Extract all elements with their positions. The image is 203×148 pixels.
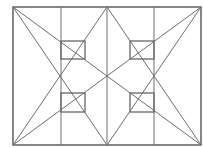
geometric-diagram bbox=[0, 0, 203, 148]
